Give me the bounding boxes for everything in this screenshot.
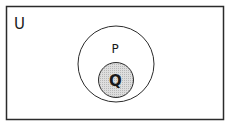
universal-set-label: U	[14, 15, 25, 33]
set-p-label: P	[112, 42, 119, 56]
set-q-label: Q	[109, 72, 122, 90]
venn-diagram: U P Q	[0, 0, 232, 127]
